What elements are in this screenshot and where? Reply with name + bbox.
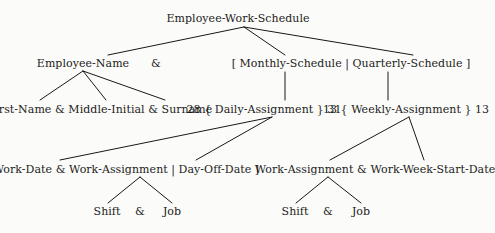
edge-right-wa-to-job xyxy=(328,177,361,203)
edge-daily-to-detail-right xyxy=(196,117,272,160)
node-schedule-choice: [ Monthly-Schedule | Quarterly-Schedule … xyxy=(232,58,471,70)
node-daily-detail: [ Work-Date & Work-Assignment | Day-Off-… xyxy=(0,164,259,176)
edge-name-to-first xyxy=(40,71,83,100)
edge-left-wa-to-job xyxy=(140,177,172,203)
edge-root-to-monthly xyxy=(244,27,285,55)
node-employee-name: Employee-Name xyxy=(37,58,129,70)
edge-daily-to-detail-left xyxy=(60,117,272,160)
node-shift-right: Shift xyxy=(282,206,309,218)
node-job-left: Job xyxy=(163,206,181,218)
node-weekly-detail: Work-Assignment & Work-Week-Start-Date xyxy=(255,164,495,176)
node-ampersand-left: & xyxy=(135,206,145,218)
edge-root-to-employee-name xyxy=(108,27,244,55)
node-name-parts: First-Name & Middle-Initial & Surname xyxy=(0,104,212,116)
node-daily-assignment: 28 { Daily-Assignment } 31 xyxy=(187,104,342,116)
edge-weekly-to-detail-right xyxy=(409,117,424,160)
node-weekly-assignment: 13 { Weekly-Assignment } 13 xyxy=(323,104,489,116)
edge-left-wa-to-shift xyxy=(108,177,140,203)
edge-right-wa-to-shift xyxy=(296,177,328,203)
node-ampersand-right: & xyxy=(323,206,333,218)
edge-name-to-surname xyxy=(83,71,165,100)
node-root-ampersand: & xyxy=(151,58,161,70)
node-employee-work-schedule: Employee-Work-Schedule xyxy=(166,13,309,25)
node-shift-left: Shift xyxy=(94,206,121,218)
edge-weekly-to-detail-left xyxy=(330,117,409,160)
node-job-right: Job xyxy=(352,206,370,218)
edge-root-to-quarterly xyxy=(244,27,413,55)
